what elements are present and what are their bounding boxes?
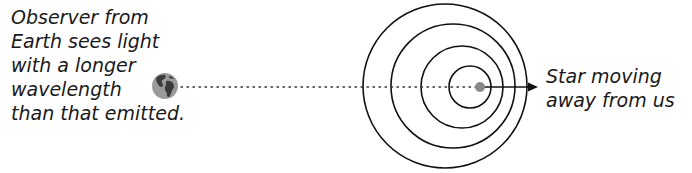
wavefronts: [363, 4, 527, 168]
star-caption: Star moving away from us: [546, 64, 675, 112]
wavefront-second: [391, 24, 515, 148]
star-caption-line: away from us: [546, 88, 675, 112]
earth-globe-icon: [152, 73, 178, 99]
star-caption-line: Star moving: [546, 64, 675, 88]
star-dot-icon: [475, 82, 485, 92]
